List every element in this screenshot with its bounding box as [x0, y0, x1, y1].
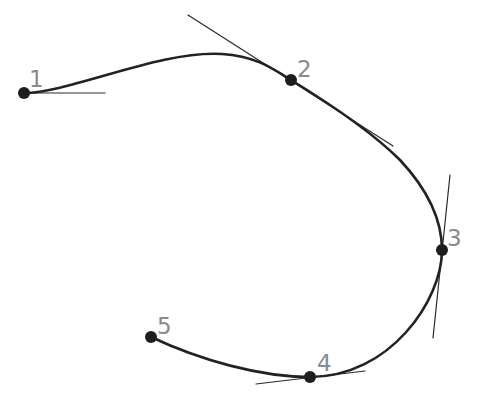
control-point-4[interactable]	[304, 371, 316, 383]
point-label-2: 2	[297, 56, 312, 82]
control-point-5[interactable]	[145, 331, 157, 343]
point-label-3: 3	[447, 225, 462, 251]
point-label-1: 1	[29, 66, 44, 92]
point-label-5: 5	[157, 313, 172, 339]
point-label-4: 4	[317, 350, 332, 376]
background	[0, 0, 481, 403]
control-point-2[interactable]	[285, 74, 297, 86]
spline-diagram: 1 2 3 4 5	[0, 0, 481, 403]
